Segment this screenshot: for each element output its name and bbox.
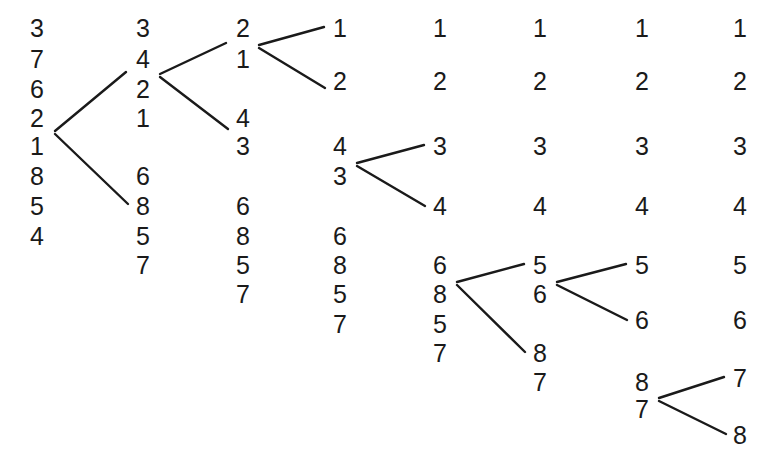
digit-cell: 4 [329,134,351,159]
link-c7-to-c8-lower [659,401,726,434]
digit-cell: 6 [429,253,451,278]
digit-cell: 6 [232,194,254,219]
digit-cell: 5 [132,224,154,249]
digit-cell: 3 [329,164,351,189]
digit-cell: 8 [329,253,351,278]
digit-cell: 1 [232,47,254,72]
digit-cell: 1 [529,16,551,41]
digit-cell: 4 [232,106,254,131]
digit-cell: 5 [26,194,48,219]
link-c1-to-c2-upper [55,72,126,131]
digit-cell: 2 [132,77,154,102]
digit-cell: 2 [26,106,48,131]
digit-cell: 4 [729,194,751,219]
digit-cell: 3 [232,134,254,159]
digit-cell: 4 [529,194,551,219]
digit-cell: 6 [529,282,551,307]
connector-layer [0,0,774,469]
digit-cell: 7 [26,47,48,72]
digit-cell: 7 [329,312,351,337]
link-c2-to-c3-lower [160,77,228,129]
digit-cell: 2 [529,69,551,94]
link-c4-to-c5-lower [357,166,425,206]
digit-cell: 7 [132,253,154,278]
digit-cell: 6 [26,77,48,102]
digit-cell: 6 [132,164,154,189]
digit-cell: 1 [729,16,751,41]
digit-cell: 4 [631,194,653,219]
digit-cell: 1 [631,16,653,41]
digit-cell: 7 [631,397,653,422]
digit-cell: 3 [631,134,653,159]
digit-cell: 2 [429,69,451,94]
digit-cell: 6 [729,308,751,333]
digit-cell: 1 [132,106,154,131]
digit-cell: 2 [232,16,254,41]
digit-cell: 3 [429,134,451,159]
digit-cell: 8 [729,423,751,448]
digit-cell: 7 [232,282,254,307]
digit-cell: 4 [429,194,451,219]
digit-cell: 7 [529,370,551,395]
link-c4-to-c5-upper [357,145,424,163]
digit-cell: 2 [729,69,751,94]
digit-cell: 8 [429,282,451,307]
link-c5-to-c6-upper [457,264,524,282]
digit-cell: 4 [132,47,154,72]
digit-cell: 7 [729,366,751,391]
diagram-canvas: 3762185434216857214368571243685712346857… [0,0,774,469]
digit-cell: 4 [26,224,48,249]
link-c2-to-c3-upper [160,43,226,74]
digit-cell: 7 [429,341,451,366]
digit-cell: 1 [429,16,451,41]
digit-cell: 3 [529,134,551,159]
link-c6-to-c7-lower [557,285,627,320]
digit-cell: 8 [631,370,653,395]
digit-cell: 5 [232,253,254,278]
link-c7-to-c8-upper [659,377,724,398]
digit-cell: 3 [132,16,154,41]
digit-cell: 5 [529,253,551,278]
digit-cell: 6 [329,224,351,249]
digit-cell: 5 [429,312,451,337]
digit-cell: 5 [631,253,653,278]
link-c3-to-c4-upper [259,27,324,45]
digit-cell: 5 [329,282,351,307]
digit-cell: 6 [631,308,653,333]
digit-cell: 8 [232,224,254,249]
link-c1-to-c2-lower [55,134,128,204]
link-c6-to-c7-upper [557,264,626,282]
digit-cell: 3 [26,16,48,41]
digit-cell: 8 [132,194,154,219]
digit-cell: 3 [729,134,751,159]
digit-cell: 8 [529,341,551,366]
link-c3-to-c4-lower [259,48,325,88]
digit-cell: 2 [631,69,653,94]
digit-cell: 5 [729,253,751,278]
link-c5-to-c6-lower [457,285,525,352]
digit-cell: 1 [26,134,48,159]
digit-cell: 2 [329,69,351,94]
digit-cell: 1 [329,16,351,41]
digit-cell: 8 [26,164,48,189]
